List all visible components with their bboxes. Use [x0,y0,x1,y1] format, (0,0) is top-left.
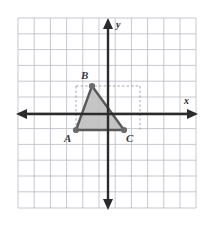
vertex-label-b: B [81,70,88,81]
coordinate-plane-svg [0,0,213,231]
vertex-label-c: C [126,133,133,144]
vertex-label-a: A [64,133,71,144]
vertex-dot-a [73,127,79,133]
coordinate-plane-figure: A B C x y [0,0,213,231]
x-axis-label: x [184,96,189,106]
vertex-dot-b [89,83,95,89]
y-axis-label: y [116,20,120,30]
